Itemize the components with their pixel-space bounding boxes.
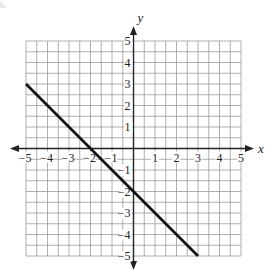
x-axis-right-arrow-icon [245, 145, 254, 152]
y-tick-label: −1 [118, 163, 131, 177]
x-tick-label: −4 [40, 151, 53, 165]
x-tick-label: 4 [217, 151, 223, 165]
x-tick-label: 1 [152, 151, 158, 165]
y-axis-label: y [136, 10, 144, 25]
x-tick-label: 3 [195, 151, 201, 165]
y-tick-label: 1 [125, 120, 131, 134]
x-tick-label: 2 [174, 151, 180, 165]
y-tick-label: 5 [125, 34, 131, 48]
y-tick-label: 4 [125, 56, 131, 70]
y-tick-label: −5 [118, 249, 131, 263]
x-axis-label: x [257, 141, 264, 156]
y-tick-label: 2 [125, 99, 131, 113]
x-tick-label: −5 [19, 151, 32, 165]
x-tick-label: −1 [105, 151, 118, 165]
x-tick-label: 5 [238, 151, 244, 165]
y-tick-label: −3 [118, 206, 131, 220]
y-axis-up-arrow-icon [130, 26, 137, 35]
x-tick-label: −3 [62, 151, 75, 165]
y-tick-label: −4 [118, 228, 131, 242]
y-tick-label: 3 [125, 77, 131, 91]
y-axis-down-arrow-icon [130, 261, 137, 270]
coordinate-plane: xy−5−4−3−2−112345−5−4−3−2−112345 [0, 0, 274, 278]
